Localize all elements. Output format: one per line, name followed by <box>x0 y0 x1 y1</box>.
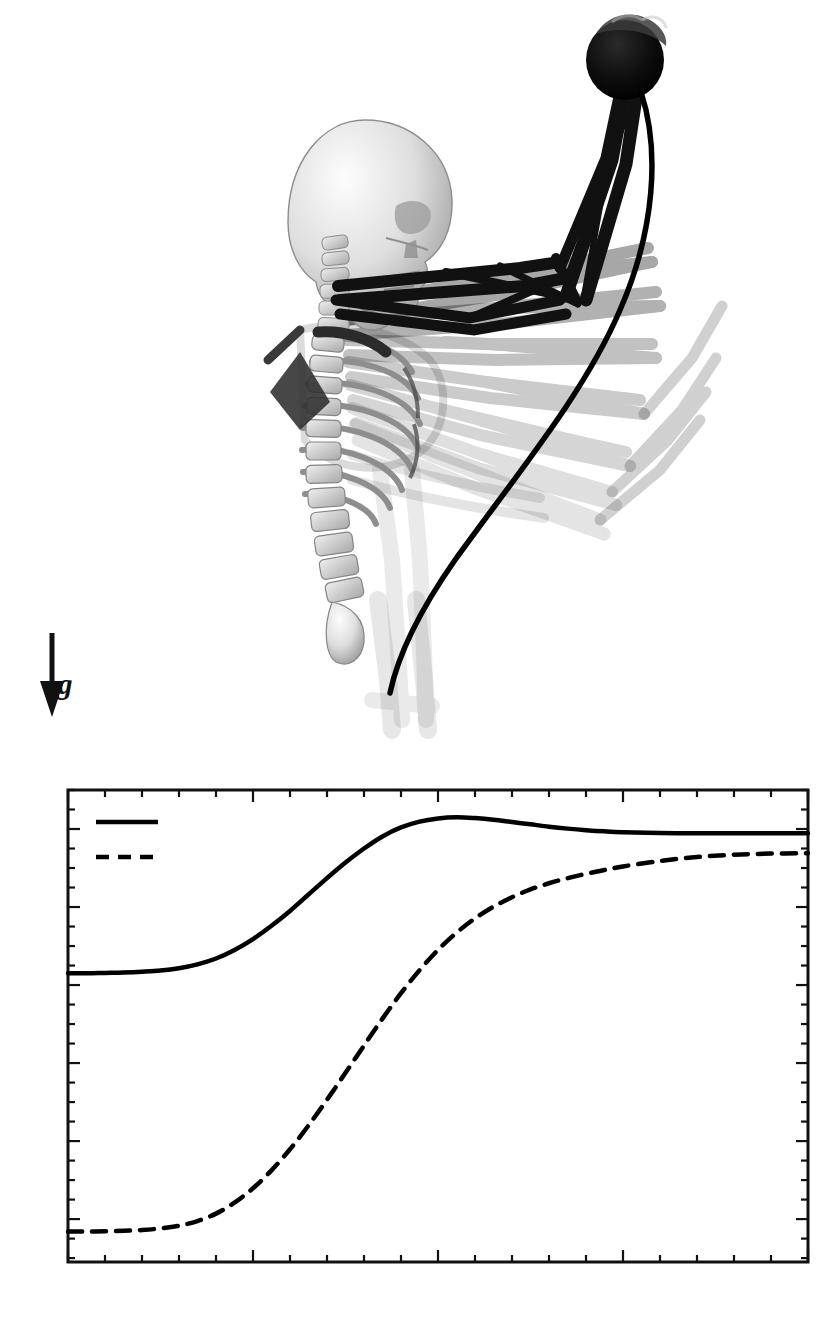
skeleton-motion-capture-image <box>0 0 828 760</box>
gravity-label: g <box>58 668 73 701</box>
displacement-chart <box>0 760 828 1334</box>
gravity-arrow-icon <box>30 625 120 725</box>
displacement-plot-panel: x y displacement (m) time (s) 00.511.52 … <box>0 760 828 1334</box>
skeleton-figure-panel: g <box>0 0 828 760</box>
